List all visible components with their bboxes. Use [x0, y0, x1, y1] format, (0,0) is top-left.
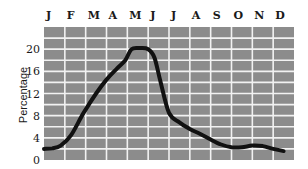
month-label: M [129, 9, 141, 22]
month-label: A [108, 9, 118, 22]
month-label: D [275, 9, 285, 22]
plot-area [44, 27, 294, 160]
y-tick-label: 4 [33, 132, 40, 145]
y-tick-label: 12 [26, 88, 40, 101]
y-tick-label: 20 [26, 43, 40, 56]
y-tick-label: 8 [33, 110, 40, 123]
y-tick-label: 16 [26, 65, 40, 78]
month-label: N [254, 9, 264, 22]
month-label: J [170, 9, 176, 22]
month-label: J [45, 9, 51, 22]
month-label: O [234, 9, 244, 22]
y-tick-label: 0 [33, 154, 40, 167]
month-label: M [88, 9, 100, 22]
line-chart: Percentage JFMAMJJASOND 048121620 [0, 0, 308, 169]
month-label: F [67, 9, 75, 22]
month-label: S [213, 9, 221, 22]
month-label: J [149, 9, 155, 22]
month-label: A [191, 9, 201, 22]
x-axis-month-labels: JFMAMJJASOND [45, 9, 285, 22]
